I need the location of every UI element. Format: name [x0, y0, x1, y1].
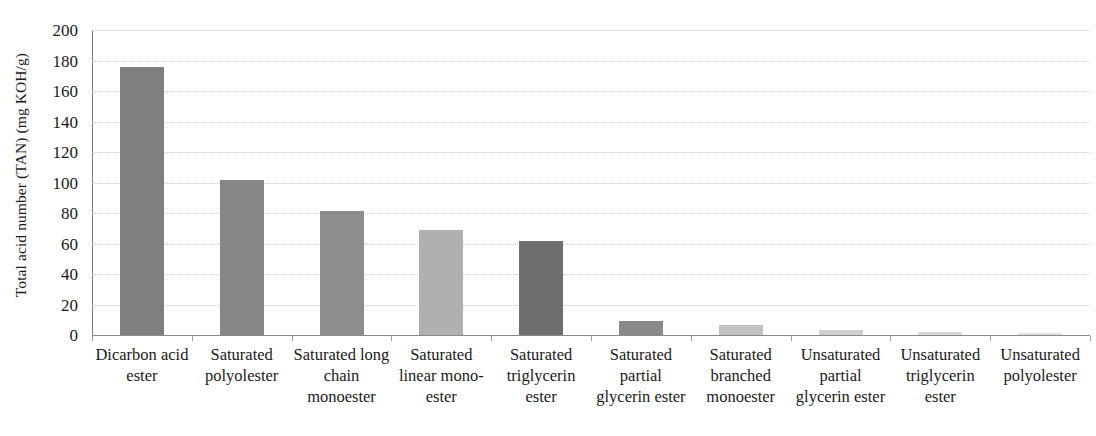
x-axis-category-label: Saturated polyolester: [192, 344, 292, 386]
bar: [120, 67, 164, 335]
bar: [419, 230, 463, 335]
x-axis-category-label: Saturated long chain monoester: [292, 344, 392, 407]
x-axis-category-label: Saturated triglycerin ester: [491, 344, 591, 407]
y-axis-tick-label: 20: [28, 296, 84, 313]
gridline: [92, 152, 1090, 154]
y-axis-tick-label: 40: [28, 266, 84, 283]
gridline: [92, 61, 1090, 63]
bar: [719, 325, 763, 335]
bar-chart: Total acid number (TAN) (mg KOH/g) 02040…: [0, 0, 1096, 436]
x-axis-category-label: Dicarbon acid ester: [92, 344, 192, 386]
x-axis-tick-mark: [391, 336, 392, 341]
x-axis-category-label: Saturated linear mono-ester: [391, 344, 491, 407]
gridline: [92, 122, 1090, 124]
y-axis-tick-label: 200: [28, 22, 84, 39]
bar: [320, 211, 364, 335]
x-axis-tick-mark: [1090, 336, 1091, 341]
y-axis-tick-label: 120: [28, 144, 84, 161]
y-axis-tick-label: 180: [28, 52, 84, 69]
y-axis-tick-label: 100: [28, 174, 84, 191]
x-axis-tick-mark: [691, 336, 692, 341]
x-axis-category-label: Saturated branched monoester: [691, 344, 791, 407]
x-axis-category-labels: Dicarbon acid esterSaturated polyolester…: [92, 344, 1090, 432]
plot-area: [92, 30, 1090, 335]
x-axis-category-label: Unsaturated partial glycerin ester: [791, 344, 891, 407]
x-axis-tick-mark: [92, 336, 93, 341]
y-axis-tick-label: 0: [28, 327, 84, 344]
x-axis-category-label: Unsaturated triglycerin ester: [890, 344, 990, 407]
gridline: [92, 30, 1090, 32]
bar: [619, 321, 663, 335]
x-axis-category-label: Unsaturated polyolester: [990, 344, 1090, 386]
x-axis-tick-mark: [890, 336, 891, 341]
x-axis-tick-mark: [791, 336, 792, 341]
y-axis-tick-labels: 020406080100120140160180200: [28, 0, 84, 436]
x-axis-tick-mark: [192, 336, 193, 341]
x-axis-tick-mark: [292, 336, 293, 341]
y-axis-tick-label: 160: [28, 83, 84, 100]
bar: [519, 241, 563, 335]
x-axis-tick-mark: [491, 336, 492, 341]
gridline: [92, 91, 1090, 93]
x-axis-category-label: Saturated partial glycerin ester: [591, 344, 691, 407]
y-axis-tick-label: 80: [28, 205, 84, 222]
x-axis-tick-mark: [591, 336, 592, 341]
x-axis-tick-mark: [990, 336, 991, 341]
y-axis-tick-label: 60: [28, 235, 84, 252]
bar: [220, 180, 264, 335]
y-axis-tick-label: 140: [28, 113, 84, 130]
